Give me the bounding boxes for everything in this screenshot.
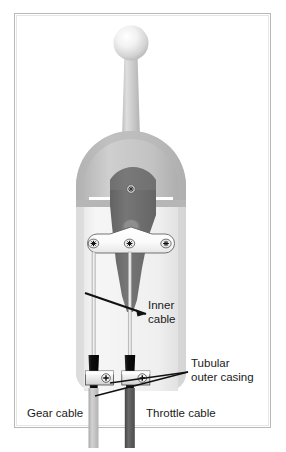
clamp-block-left — [86, 371, 114, 385]
lever-knob — [114, 26, 149, 61]
bracket-screw-left — [88, 239, 98, 248]
inner-cable-right — [128, 252, 131, 360]
bracket-screw-right — [161, 239, 171, 248]
label-tubular-outer-casing-line1: Tubular — [191, 357, 230, 369]
label-throttle-cable: Throttle cable — [146, 407, 216, 419]
label-inner-cable-line2: cable — [148, 313, 176, 325]
bicycle-lever-diagram: Inner cable Tubular outer casing Gear ca… — [0, 0, 286, 452]
label-tubular-outer-casing-line2: outer casing — [191, 371, 254, 383]
bracket-screw-center — [124, 239, 134, 248]
gear-cable — [89, 388, 99, 448]
figure-container: Inner cable Tubular outer casing Gear ca… — [0, 0, 286, 452]
label-gear-cable: Gear cable — [27, 407, 83, 419]
throttle-cable — [125, 388, 135, 448]
inner-cable-left — [92, 252, 95, 360]
pivot-screw-cross — [128, 186, 134, 192]
label-inner-cable-line1: Inner — [148, 299, 174, 311]
